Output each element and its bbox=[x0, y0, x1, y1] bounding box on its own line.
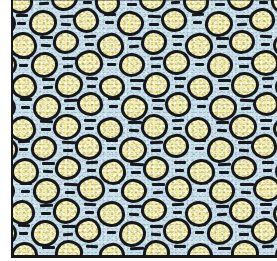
stroma-dash bbox=[41, 212, 51, 215]
stroma-dash bbox=[86, 77, 98, 80]
illustration-plate bbox=[11, 0, 277, 258]
stroma-dash bbox=[261, 211, 270, 214]
stroma-dash bbox=[128, 37, 142, 40]
stroma-dash bbox=[129, 129, 139, 132]
stroma-dash bbox=[261, 127, 270, 130]
stroma-dash bbox=[237, 23, 247, 26]
stroma-dash bbox=[216, 121, 229, 124]
stroma-dash bbox=[173, 43, 182, 46]
stroma-dash bbox=[261, 43, 270, 46]
stroma-dash bbox=[260, 203, 272, 206]
figure-root bbox=[0, 0, 277, 261]
stroma-dash bbox=[238, 225, 252, 228]
stroma-dash bbox=[171, 1, 180, 4]
stroma-dash bbox=[195, 231, 204, 234]
stroma-dash bbox=[149, 23, 159, 26]
stroma-dash bbox=[151, 149, 161, 152]
stroma-dash bbox=[239, 65, 249, 68]
stroma-dash bbox=[129, 213, 139, 216]
stroma-dash bbox=[85, 43, 94, 46]
stroma-dash bbox=[40, 36, 53, 39]
stroma-dash bbox=[86, 245, 98, 248]
stroma-dash bbox=[153, 107, 163, 110]
stroma-dash bbox=[62, 57, 76, 60]
stroma-dash bbox=[262, 161, 274, 164]
stroma-dash bbox=[152, 99, 165, 102]
stroma-dash bbox=[152, 183, 165, 186]
stroma-dash bbox=[153, 191, 163, 194]
stroma-dash bbox=[129, 45, 139, 48]
stroma-dash bbox=[218, 247, 231, 250]
stroma-dash bbox=[150, 225, 163, 228]
stroma-dash bbox=[217, 129, 227, 132]
stroma-dash bbox=[85, 211, 94, 214]
stroma-dash bbox=[263, 169, 272, 172]
stroma-dash bbox=[43, 170, 53, 173]
stroma-dash bbox=[107, 63, 116, 66]
stroma-dash bbox=[238, 57, 252, 60]
stroma-dash bbox=[195, 63, 204, 66]
stroma-dash bbox=[109, 105, 118, 108]
stroma-dash bbox=[16, 14, 28, 17]
stroma-dash bbox=[148, 15, 161, 18]
stroma-dash bbox=[218, 163, 231, 166]
stroma-dash bbox=[260, 35, 272, 38]
stroma-dash bbox=[19, 232, 28, 235]
stroma-dash bbox=[19, 148, 28, 151]
stroma-dash bbox=[172, 35, 184, 38]
stroma-dash bbox=[61, 23, 71, 26]
stroma-dash bbox=[130, 247, 144, 250]
stroma-dash bbox=[197, 189, 206, 192]
stroma-dash bbox=[151, 65, 161, 68]
stroma-dash bbox=[150, 57, 163, 60]
stroma-dash bbox=[21, 106, 30, 109]
stroma-dash bbox=[216, 37, 229, 40]
stroma-dash bbox=[172, 203, 184, 206]
stroma-dash bbox=[215, 3, 225, 6]
stroma-dash bbox=[43, 86, 53, 89]
stroma-dash bbox=[259, 1, 268, 4]
stroma-dash bbox=[128, 121, 142, 124]
stroma-dash bbox=[62, 141, 76, 144]
stroma-dash bbox=[42, 162, 55, 165]
stroma-dash bbox=[174, 161, 186, 164]
stroma-dash bbox=[65, 107, 75, 110]
stroma-dash bbox=[151, 233, 161, 236]
stroma-dash bbox=[63, 233, 73, 236]
stroma-dash bbox=[239, 149, 249, 152]
stroma-dash bbox=[239, 233, 249, 236]
stroma-dash bbox=[63, 65, 73, 68]
stroma-dash bbox=[87, 169, 96, 172]
stroma-dash bbox=[86, 161, 98, 164]
stroma-dash bbox=[107, 231, 116, 234]
stroma-dash bbox=[85, 127, 94, 130]
stroma-dash bbox=[62, 225, 76, 228]
stroma-dash bbox=[174, 245, 186, 248]
stroma-dash bbox=[260, 119, 272, 122]
stroma-dash bbox=[65, 191, 75, 194]
plate-top-edge bbox=[13, 0, 277, 1]
stroma-dash bbox=[217, 213, 227, 216]
stroma-dash bbox=[63, 149, 73, 152]
stroma-dash bbox=[174, 77, 186, 80]
stroma-dash bbox=[241, 191, 251, 194]
stroma-dash bbox=[262, 77, 274, 80]
stroma-dash bbox=[41, 128, 51, 131]
stroma-dash bbox=[131, 171, 141, 174]
stroma-dash bbox=[41, 44, 51, 47]
stroma-dash bbox=[219, 171, 229, 174]
stroma-dash bbox=[173, 127, 182, 130]
stroma-dash bbox=[172, 119, 184, 122]
stroma-dash bbox=[217, 45, 227, 48]
stroma-dash bbox=[130, 163, 144, 166]
stroma-dash bbox=[83, 1, 92, 4]
stroma-dash bbox=[130, 79, 144, 82]
stroma-dash bbox=[236, 15, 250, 18]
stroma-dash bbox=[219, 87, 229, 90]
stroma-dash bbox=[105, 21, 114, 24]
stroma-dash bbox=[195, 147, 204, 150]
texture-canvas bbox=[11, 0, 277, 258]
stroma-dash bbox=[84, 203, 96, 206]
stroma-dash bbox=[197, 105, 206, 108]
stroma-dash bbox=[131, 87, 141, 90]
